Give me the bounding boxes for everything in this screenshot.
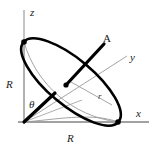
disk-vertex-top-dot [21,39,27,45]
z-axis-label: z [30,7,34,18]
vector-A-shaft [66,44,104,85]
length-R-horizontal-label: R [67,133,74,144]
length-r-label: r [98,92,102,101]
diagram-canvas [0,0,157,156]
length-R-vertical-label: R [6,79,13,90]
vector-A-base-dot [63,82,68,87]
figure-container: z y x A R R r θ [0,0,157,156]
vector-A-label: A [103,33,111,44]
angle-theta-label: θ [29,99,34,110]
x-axis-label: x [136,108,141,119]
y-axis-label: y [130,52,135,63]
disk-vertex-bottom-dot [115,119,121,125]
